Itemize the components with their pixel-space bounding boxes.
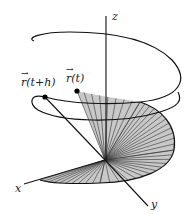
x-axis-label: x	[15, 182, 22, 195]
point-r-t-plus-h	[42, 94, 47, 99]
swept-area-fan	[40, 91, 175, 184]
y-axis-label: y	[150, 198, 158, 211]
helix-area-diagram: z x y → r(t) → r(t+h)	[0, 0, 196, 214]
point-r-t	[74, 88, 79, 93]
z-axis-label: z	[111, 10, 118, 23]
r-t-plus-h-label: r(t+h)	[21, 76, 56, 89]
r-t-label: r(t)	[66, 72, 84, 85]
